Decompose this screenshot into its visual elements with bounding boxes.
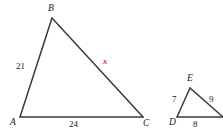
triangles-drawing [0,0,223,135]
side-length-ac: 24 [69,120,78,129]
side-length-ef: 9 [209,95,214,104]
segment-de [177,88,190,117]
geometry-figure-canvas: A B C D E 21 24 x 7 9 8 [0,0,223,135]
vertex-label-a: A [10,118,16,128]
segment-bc [52,18,143,117]
side-length-bc-unknown: x [103,57,107,66]
side-length-df: 8 [193,120,198,129]
side-length-de: 7 [172,95,177,104]
vertex-label-c: C [143,119,149,129]
vertex-label-b: B [48,4,54,14]
segment-ef [190,88,223,117]
small-triangle-def [177,88,223,117]
large-triangle-abc [20,18,143,117]
side-length-ab: 21 [16,62,25,71]
vertex-label-e: E [187,74,193,84]
vertex-label-d: D [169,118,176,128]
